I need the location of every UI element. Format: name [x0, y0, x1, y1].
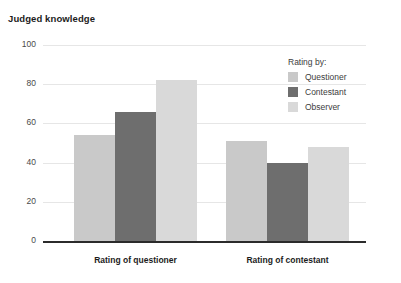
y-tick-label: 0 — [31, 235, 36, 245]
bar — [74, 135, 115, 241]
bar-chart: Judged knowledge 020406080100 Rating of … — [0, 0, 401, 283]
bar — [267, 163, 308, 241]
category-label: Rating of questioner — [74, 255, 197, 265]
legend-item[interactable]: Questioner — [288, 71, 347, 82]
y-tick-label: 40 — [27, 157, 36, 167]
gridline — [43, 123, 366, 124]
chart-title: Judged knowledge — [8, 13, 95, 24]
bar — [308, 147, 349, 241]
legend-label: Contestant — [305, 87, 346, 97]
bar — [115, 112, 156, 241]
legend-label: Questioner — [305, 72, 347, 82]
y-tick-label: 80 — [27, 78, 36, 88]
legend-swatch — [288, 102, 298, 112]
y-tick-label: 60 — [27, 117, 36, 127]
legend-swatch — [288, 87, 298, 97]
bar — [226, 141, 267, 241]
legend-title: Rating by: — [288, 57, 347, 67]
legend-swatch — [288, 72, 298, 82]
legend-item[interactable]: Contestant — [288, 86, 347, 97]
gridline — [43, 45, 366, 46]
legend-item[interactable]: Observer — [288, 101, 347, 112]
category-label: Rating of contestant — [226, 255, 349, 265]
y-tick-label: 100 — [22, 39, 36, 49]
legend-rows: QuestionerContestantObserver — [288, 71, 347, 112]
x-axis-line — [43, 241, 366, 243]
legend: Rating by: QuestionerContestantObserver — [288, 57, 347, 116]
y-tick-label: 20 — [27, 196, 36, 206]
bar — [156, 80, 197, 241]
legend-label: Observer — [305, 102, 340, 112]
